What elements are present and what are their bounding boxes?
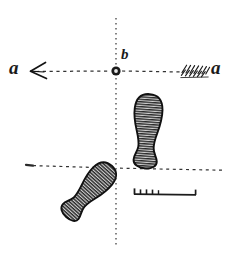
label-a-left: a xyxy=(9,58,19,77)
label-a-right: a xyxy=(211,58,221,77)
point-b-marker xyxy=(111,66,120,75)
diagram-canvas xyxy=(0,0,233,257)
left-footprint xyxy=(56,157,121,225)
arrow-fletching-icon xyxy=(181,65,210,77)
footprint-diagram-figure: a a b xyxy=(0,0,233,257)
label-b: b xyxy=(121,47,129,62)
arrowhead-left-icon xyxy=(31,63,47,79)
horizontal-axis-a-a xyxy=(36,71,184,72)
right-footprint xyxy=(131,93,164,169)
scale-bar xyxy=(134,188,196,195)
lower-baseline xyxy=(26,165,222,170)
